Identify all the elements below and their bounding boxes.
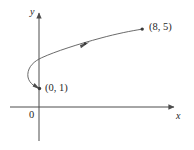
parametric-curve-figure: y x 0 (0, 1) (8, 5) [0,0,194,150]
parametric-curve [28,29,142,88]
point-label-end: (8, 5) [149,22,172,33]
point-label-start: (0, 1) [45,83,68,94]
point-marker-mid [84,42,87,45]
point-marker-end [141,27,144,30]
origin-label: 0 [29,110,34,121]
point-marker-start [38,87,41,90]
y-axis-label: y [30,7,34,17]
x-axis-label: x [176,111,180,121]
